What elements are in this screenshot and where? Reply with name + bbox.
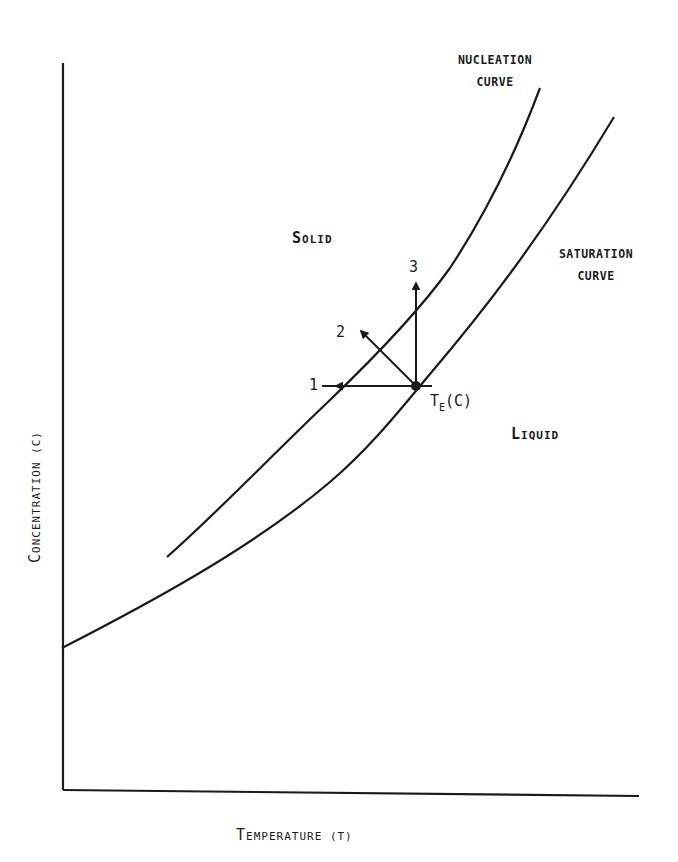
saturation-curve-label: SATURATION CURVE bbox=[540, 243, 652, 287]
saturation-curve bbox=[62, 117, 614, 648]
eq-T: T bbox=[430, 392, 439, 410]
liquid-rest: IQUID bbox=[521, 429, 559, 442]
nucleation-label-line1: NUCLEATION bbox=[440, 49, 550, 71]
y-axis-initial: C bbox=[26, 553, 44, 563]
eq-rest: (C) bbox=[445, 392, 472, 410]
y-axis-title: CONCENTRATION (C) bbox=[26, 431, 44, 563]
liquid-initial: L bbox=[511, 425, 521, 443]
x-axis-title: TEMPERATURE (T) bbox=[236, 826, 353, 844]
liquid-region-label: LIQUID bbox=[511, 425, 559, 443]
equilibrium-label: TE(C) bbox=[430, 392, 472, 410]
phase-diagram bbox=[0, 0, 678, 862]
nucleation-label-line2: CURVE bbox=[440, 71, 550, 93]
y-axis-rest: ONCENTRATION (C) bbox=[30, 431, 43, 553]
saturation-label-line2: CURVE bbox=[540, 265, 652, 287]
solid-initial: S bbox=[292, 229, 302, 247]
eq-subscript: E bbox=[439, 402, 445, 413]
nucleation-curve bbox=[167, 88, 540, 557]
arrow-3-label: 3 bbox=[409, 258, 418, 276]
saturation-label-line1: SATURATION bbox=[540, 243, 652, 265]
arrow-1-label: 1 bbox=[309, 376, 318, 394]
solid-region-label: SOLID bbox=[292, 229, 333, 247]
x-axis-initial: T bbox=[236, 826, 246, 844]
equilibrium-point bbox=[411, 381, 421, 391]
nucleation-curve-label: NUCLEATION CURVE bbox=[440, 49, 550, 93]
arrow-2 bbox=[361, 331, 416, 386]
x-axis-rest: EMPERATURE (T) bbox=[246, 830, 353, 843]
solid-rest: OLID bbox=[302, 233, 333, 246]
x-axis bbox=[63, 790, 639, 796]
arrow-2-label: 2 bbox=[336, 323, 345, 341]
